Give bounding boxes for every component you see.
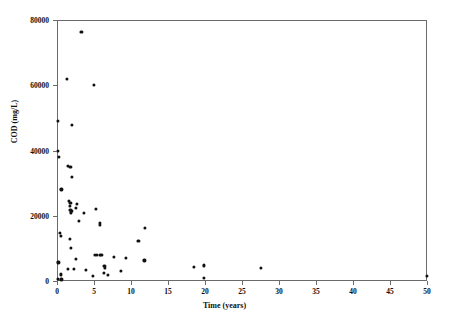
data-point — [425, 275, 428, 278]
data-point — [202, 276, 205, 279]
x-tick — [57, 281, 58, 285]
x-tick — [242, 281, 243, 285]
plot-data-area — [57, 20, 427, 281]
x-tick — [205, 281, 206, 285]
x-tick — [427, 281, 428, 285]
data-point — [100, 253, 103, 256]
data-point — [124, 257, 127, 260]
data-point — [69, 211, 72, 214]
data-point — [65, 77, 68, 80]
data-point — [75, 257, 78, 260]
y-tick — [53, 85, 57, 86]
data-point — [143, 259, 146, 262]
x-tick-label: 20 — [201, 287, 209, 296]
data-point — [143, 227, 146, 230]
data-point — [69, 246, 72, 249]
x-tick — [94, 281, 95, 285]
data-point — [70, 123, 73, 126]
data-point — [58, 155, 61, 158]
x-tick — [131, 281, 132, 285]
x-tick-label: 15 — [164, 287, 172, 296]
y-tick — [53, 216, 57, 217]
data-point — [57, 261, 60, 264]
x-tick — [168, 281, 169, 285]
data-point — [59, 234, 62, 237]
x-tick-label: 45 — [386, 287, 394, 296]
y-tick-label: 60000 — [5, 81, 49, 90]
data-point — [203, 264, 206, 267]
data-point — [80, 30, 83, 33]
data-point — [69, 166, 72, 169]
data-point — [98, 224, 101, 227]
data-point — [78, 219, 81, 222]
x-tick-label: 5 — [92, 287, 96, 296]
x-tick-label: 25 — [238, 287, 246, 296]
x-axis-label: Time (years) — [0, 301, 449, 310]
data-point — [137, 239, 140, 242]
x-tick — [390, 281, 391, 285]
x-tick — [279, 281, 280, 285]
x-tick — [316, 281, 317, 285]
data-point — [70, 176, 73, 179]
data-point — [75, 206, 78, 209]
data-point — [95, 208, 98, 211]
y-tick — [53, 151, 57, 152]
x-tick-label: 50 — [423, 287, 431, 296]
data-point — [259, 266, 262, 269]
scatter-chart: Time (years) COD (mg/L) 0510152025303540… — [0, 0, 449, 328]
data-point — [59, 273, 62, 276]
data-point — [56, 277, 59, 280]
x-tick-label: 35 — [312, 287, 320, 296]
data-point — [192, 265, 195, 268]
y-tick-label: 0 — [5, 277, 49, 286]
y-tick-label: 80000 — [5, 16, 49, 25]
data-point — [72, 267, 75, 270]
x-tick-label: 30 — [275, 287, 283, 296]
x-tick — [353, 281, 354, 285]
data-point — [92, 275, 95, 278]
data-point — [56, 120, 59, 123]
y-tick-label: 40000 — [5, 146, 49, 155]
data-point — [60, 188, 63, 191]
x-tick-label: 0 — [55, 287, 59, 296]
data-point — [112, 255, 115, 258]
y-tick-label: 20000 — [5, 211, 49, 220]
data-point — [92, 83, 95, 86]
data-point — [104, 266, 107, 269]
data-point — [119, 269, 122, 272]
y-tick — [53, 20, 57, 21]
data-point — [60, 278, 63, 281]
data-point — [102, 271, 105, 274]
y-tick — [53, 281, 57, 282]
data-point — [67, 267, 70, 270]
data-point — [84, 268, 87, 271]
x-tick-label: 10 — [127, 287, 135, 296]
data-point — [106, 274, 109, 277]
data-point — [82, 211, 85, 214]
data-point — [68, 238, 71, 241]
x-tick-label: 40 — [349, 287, 357, 296]
